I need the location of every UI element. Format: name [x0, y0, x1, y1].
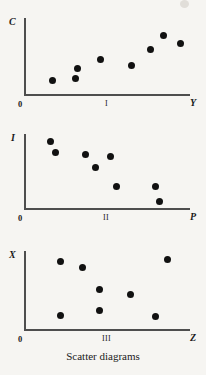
x-tick-label-3: III	[102, 334, 111, 344]
data-point	[57, 258, 64, 265]
data-point	[177, 40, 184, 47]
data-point	[74, 65, 81, 72]
y-axis-label-1: C	[9, 17, 16, 27]
y-axis-2	[24, 134, 26, 210]
data-point	[152, 313, 159, 320]
x-axis-label-3: Z	[190, 333, 196, 343]
data-point	[72, 75, 79, 82]
data-point	[160, 32, 167, 39]
data-point	[49, 77, 56, 84]
data-point	[82, 151, 89, 158]
data-point	[147, 46, 154, 53]
y-axis-label-3: X	[9, 250, 16, 260]
scatter-panel-3: X Z 0 III	[0, 245, 206, 350]
data-point	[47, 138, 54, 145]
x-tick-label-2: II	[103, 213, 109, 223]
data-point	[164, 256, 171, 263]
x-tick-label-1: I	[105, 99, 108, 109]
data-point	[57, 312, 64, 319]
x-axis-label-2: P	[190, 212, 196, 222]
x-axis-1	[24, 94, 190, 96]
data-point	[128, 62, 135, 69]
origin-label-1: 0	[18, 99, 22, 109]
scan-smudge	[180, 0, 189, 8]
plot-area-3: X Z 0 III	[0, 245, 206, 350]
data-point	[96, 286, 103, 293]
data-point	[92, 164, 99, 171]
data-point	[96, 307, 103, 314]
y-axis-1	[24, 18, 26, 96]
data-point	[156, 198, 163, 205]
y-axis-label-2: I	[11, 133, 15, 143]
data-point	[97, 56, 104, 63]
x-axis-label-1: Y	[190, 98, 196, 108]
scatter-diagrams-figure: C Y 0 I I P 0 II	[0, 0, 206, 375]
plot-area-2: I P 0 II	[0, 128, 206, 228]
x-axis-3	[24, 329, 190, 331]
plot-area-1: C Y 0 I	[0, 10, 206, 110]
figure-caption: Scatter diagrams	[0, 350, 206, 362]
origin-label-3: 0	[18, 334, 22, 344]
data-point	[113, 183, 120, 190]
data-point	[79, 264, 86, 271]
scatter-panel-1: C Y 0 I	[0, 10, 206, 110]
x-axis-2	[24, 208, 190, 210]
data-point	[107, 153, 114, 160]
data-point	[127, 291, 134, 298]
y-axis-3	[24, 251, 26, 331]
data-point	[52, 149, 59, 156]
data-point	[152, 183, 159, 190]
origin-label-2: 0	[18, 213, 22, 223]
scatter-panel-2: I P 0 II	[0, 128, 206, 228]
